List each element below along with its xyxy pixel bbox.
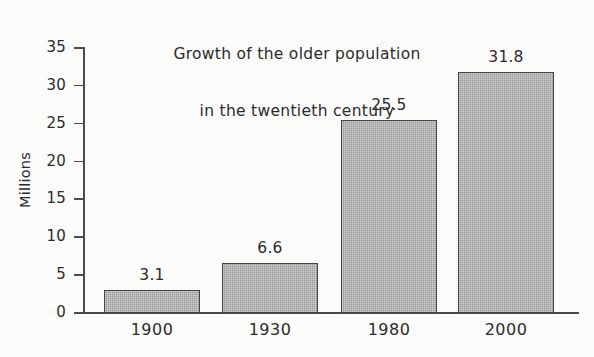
y-axis-tick-label: 35 [26, 38, 66, 56]
bar-2000 [458, 72, 554, 313]
y-axis-tick-label: 20 [26, 152, 66, 170]
y-axis-tick-label: 5 [26, 265, 66, 283]
y-axis-tick-label: 25 [26, 114, 66, 132]
bar-value-label-1980: 25.5 [341, 96, 437, 114]
bar-value-label-1900: 3.1 [104, 266, 200, 284]
bar-1930 [222, 263, 318, 313]
y-axis-tick-label: 15 [26, 189, 66, 207]
plot-area: 3.16.625.531.8 [83, 48, 578, 313]
bar-1980 [341, 120, 437, 313]
x-axis-tick-label-1980: 1980 [331, 320, 447, 339]
y-axis-tick-label: 10 [26, 227, 66, 245]
x-axis-tick-label-2000: 2000 [448, 320, 564, 339]
y-axis-tick-label: 0 [26, 303, 66, 321]
bar-value-label-2000: 31.8 [458, 48, 554, 66]
bar-value-label-1930: 6.6 [222, 239, 318, 257]
bar-chart: Growth of the older population in the tw… [0, 0, 594, 357]
y-axis-tick-label: 30 [26, 76, 66, 94]
x-axis-tick-label-1900: 1900 [94, 320, 210, 339]
x-axis-tick-label-1930: 1930 [212, 320, 328, 339]
bar-1900 [104, 290, 200, 313]
